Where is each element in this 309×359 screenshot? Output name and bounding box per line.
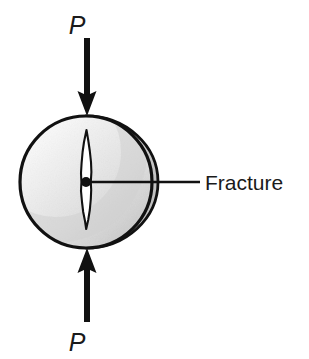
fracture-callout-label: Fracture [205,171,283,194]
center-dot [81,177,91,187]
specimen-disk [0,74,152,248]
load-label-top: P [69,11,86,39]
split-tensile-test-diagram: P P Fracture [0,0,309,359]
load-label-bottom: P [69,328,86,356]
load-arrow-top [78,38,97,116]
load-arrow-bottom [78,248,97,322]
figure-canvas: P P Fracture [0,0,309,359]
load-arrow-bottom-glyph [78,248,97,322]
load-arrow-top-glyph [78,38,97,116]
